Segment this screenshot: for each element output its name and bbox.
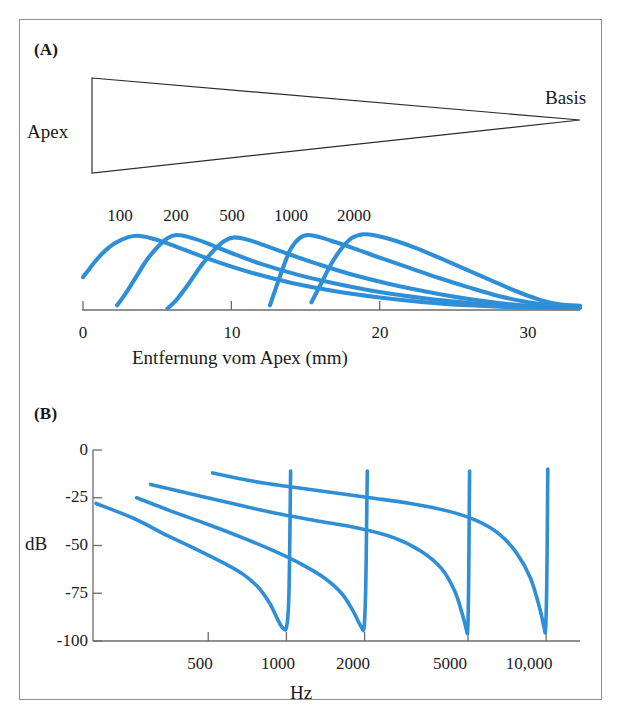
figure-root: (A) Apex Basis 100 200 500 1000 2000 0 1…	[0, 0, 618, 718]
traveling-wave-freq-label-200: 200	[152, 206, 200, 226]
traveling-wave-freq-label-1000: 1000	[265, 206, 317, 226]
panel-b-ytick-100: -100	[36, 631, 88, 651]
panel-a-tag: (A)	[34, 40, 58, 60]
panel-a-xtick-0: 0	[63, 323, 103, 343]
panel-b-xtick-10000: 10,000	[489, 654, 569, 674]
panel-b-xtick-2000: 2000	[321, 654, 385, 674]
traveling-wave-freq-label-500: 500	[208, 206, 256, 226]
panel-a-xtick-20: 20	[360, 323, 400, 343]
panel-b-ytick-0: 0	[44, 440, 88, 460]
panel-b-tag: (B)	[34, 404, 57, 424]
panel-b-xtick-1000: 1000	[246, 654, 310, 674]
traveling-wave-freq-label-100: 100	[96, 206, 144, 226]
panel-a-xaxis-title: Entfernung vom Apex (mm)	[132, 347, 348, 369]
apex-label: Apex	[27, 121, 68, 143]
panel-b-ytick-75: -75	[44, 583, 88, 603]
panel-b-ytick-25: -25	[44, 487, 88, 507]
basis-label: Basis	[545, 87, 586, 109]
panel-a-xtick-30: 30	[508, 323, 548, 343]
panel-a-xtick-10: 10	[212, 323, 252, 343]
panel-b-xtick-5000: 5000	[418, 654, 482, 674]
panel-b-ytick-50: -50	[44, 535, 88, 555]
panel-b-xaxis-title: Hz	[290, 682, 312, 704]
panel-b-xtick-500: 500	[175, 654, 225, 674]
traveling-wave-freq-label-2000: 2000	[328, 206, 380, 226]
